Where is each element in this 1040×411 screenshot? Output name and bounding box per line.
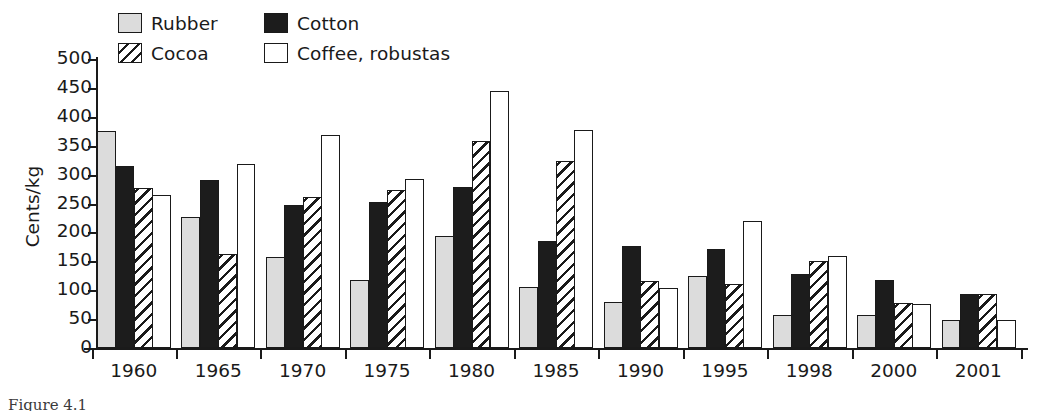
bar-cocoa-1980 <box>472 141 491 348</box>
bar-coffee-1975 <box>405 179 424 348</box>
bar-cotton-1975 <box>369 202 388 348</box>
bar-rubber-1970 <box>266 257 285 348</box>
bar-rubber-1965 <box>181 217 200 348</box>
bar-rubber-1980 <box>435 236 454 348</box>
bar-cotton-1990 <box>622 246 641 348</box>
bar-coffee-2000 <box>912 304 931 348</box>
bar-cocoa-1985 <box>556 161 575 348</box>
bar-cotton-1985 <box>538 241 557 348</box>
bar-cocoa-1998 <box>809 261 828 348</box>
bar-rubber-1985 <box>519 287 538 348</box>
bar-cocoa-2001 <box>978 294 997 348</box>
bar-rubber-2000 <box>857 315 876 348</box>
bar-cotton-1965 <box>200 180 219 348</box>
bar-cotton-1970 <box>284 205 303 348</box>
bar-cocoa-1960 <box>134 188 153 348</box>
bar-coffee-1985 <box>574 130 593 348</box>
bar-cotton-1995 <box>707 249 726 348</box>
bar-coffee-1970 <box>321 135 340 348</box>
bar-rubber-2001 <box>942 320 961 348</box>
bar-cocoa-1995 <box>725 284 744 348</box>
bar-cotton-1998 <box>791 274 810 348</box>
bar-rubber-1975 <box>350 280 369 348</box>
figure-caption: Figure 4.1 <box>8 396 87 411</box>
bar-cocoa-1990 <box>640 281 659 348</box>
bar-coffee-1990 <box>659 288 678 348</box>
bar-cotton-1980 <box>453 187 472 348</box>
bar-rubber-1998 <box>773 315 792 348</box>
bar-coffee-1995 <box>743 221 762 348</box>
bar-coffee-1998 <box>828 256 847 348</box>
bar-cotton-1960 <box>115 166 134 348</box>
bar-rubber-1960 <box>97 131 116 348</box>
bar-cocoa-2000 <box>894 303 913 348</box>
bar-cocoa-1970 <box>303 197 322 348</box>
bar-cocoa-1975 <box>387 190 406 348</box>
bar-cocoa-1965 <box>218 254 237 348</box>
bar-coffee-1960 <box>152 195 171 348</box>
bar-cotton-2000 <box>875 280 894 348</box>
bar-coffee-1980 <box>490 91 509 348</box>
bar-chart: Rubber Cotton Cocoa Coffee, robustas Cen… <box>0 0 1040 411</box>
bar-rubber-1990 <box>604 302 623 348</box>
bar-cotton-2001 <box>960 294 979 348</box>
bar-coffee-1965 <box>237 164 256 348</box>
bar-coffee-2001 <box>997 320 1016 348</box>
plot-area <box>0 0 1040 411</box>
bar-rubber-1995 <box>688 276 707 348</box>
